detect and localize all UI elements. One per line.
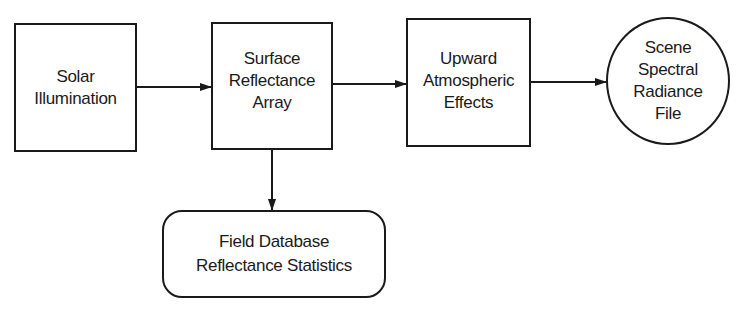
node-label-line: Reflectance [229, 70, 315, 92]
node-label-line: Radiance [633, 81, 702, 103]
node-label-line: File [655, 103, 681, 125]
node-scene-spectral-radiance-file: Scene Spectral Radiance File [606, 17, 730, 145]
node-label-line: Surface [244, 48, 301, 70]
node-field-database-reflectance-statistics: Field Database Reflectance Statistics [162, 210, 386, 298]
node-label-line: Array [252, 92, 291, 114]
node-label-line: Field Database [219, 230, 329, 254]
node-surface-reflectance-array: Surface Reflectance Array [211, 22, 333, 150]
node-label-line: Spectral [638, 59, 698, 81]
node-label-line: Reflectance Statistics [196, 254, 352, 278]
node-label-line: Effects [444, 92, 494, 114]
node-label-line: Upward [440, 48, 497, 70]
node-upward-atmospheric-effects: Upward Atmospheric Effects [406, 18, 531, 147]
node-label-line: Scene [645, 37, 692, 59]
node-label-line: Atmospheric [423, 70, 514, 92]
node-label-line: Solar [56, 66, 94, 88]
node-solar-illumination: Solar Illumination [14, 23, 137, 152]
node-label-line: Illumination [34, 88, 116, 110]
